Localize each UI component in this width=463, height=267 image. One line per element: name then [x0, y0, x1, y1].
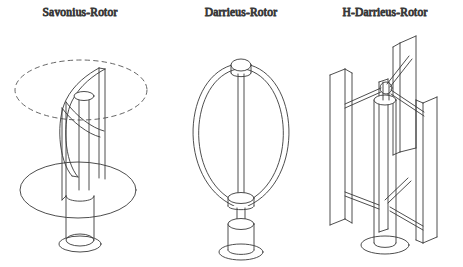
h-tower-top-cap: [374, 95, 396, 105]
savonius-shaft-top-cap: [74, 92, 94, 101]
panel-title-darrieus: Darrieus-Rotor: [205, 6, 277, 18]
panel-title-h-darrieus: H-Darrieus-Rotor: [343, 6, 428, 18]
figure-canvas: Savonius-Rotor: [0, 0, 463, 267]
darrieus-hub-top: [228, 193, 254, 204]
darrieus-pedestal-top: [228, 219, 254, 230]
h-darrieus-hub: [380, 82, 392, 94]
darrieus-top-cap-upper: [231, 59, 251, 71]
panel-title-savonius: Savonius-Rotor: [43, 6, 118, 18]
darrieus-hub-bottom: [228, 206, 254, 210]
darrieus-top-cap-lower: [231, 73, 251, 77]
wind-turbine-figure: Savonius-Rotor: [0, 0, 463, 267]
savonius-base-disc: [20, 162, 136, 218]
